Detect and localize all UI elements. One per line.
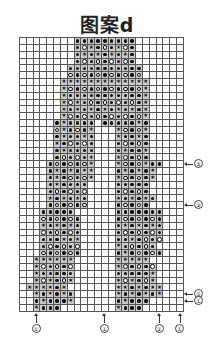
filled-dot-icon — [47, 250, 53, 256]
grid-cell — [20, 182, 27, 189]
grid-cell — [150, 182, 157, 189]
grid-cell — [170, 278, 177, 285]
star-icon: ★ — [88, 106, 94, 112]
filled-dot-icon — [61, 168, 67, 174]
filled-dot-icon — [61, 216, 67, 222]
filled-dot-icon — [109, 38, 115, 44]
grid-cell — [177, 257, 184, 264]
grid-cell — [20, 305, 27, 312]
grid-cell — [136, 271, 143, 278]
grid-cell — [20, 168, 27, 175]
grid-cell — [47, 127, 54, 134]
grid-cell — [95, 216, 102, 223]
filled-dot-icon — [88, 59, 94, 65]
grid-cell — [129, 264, 136, 271]
filled-dot-icon — [116, 59, 122, 65]
filled-dot-icon — [68, 236, 74, 242]
filled-dot-icon — [129, 86, 135, 92]
filled-dot-icon — [129, 284, 135, 290]
grid-cell — [75, 168, 82, 175]
filled-dot-icon — [122, 93, 128, 99]
grid-cell — [102, 65, 109, 72]
grid-cell — [81, 141, 88, 148]
star-icon: ★ — [47, 291, 53, 297]
grid-cell — [116, 230, 123, 237]
grid-cell — [20, 106, 27, 113]
grid-cell — [163, 45, 170, 52]
filled-dot-icon — [75, 65, 81, 71]
filled-dot-icon — [54, 278, 60, 284]
grid-cell — [143, 59, 150, 66]
grid-cell — [75, 243, 82, 250]
open-circle-icon — [68, 72, 74, 78]
grid-cell — [81, 100, 88, 107]
grid-cell — [95, 38, 102, 45]
grid-cell — [81, 236, 88, 243]
grid-cell: ★ — [116, 45, 123, 52]
star-icon: ★ — [47, 257, 53, 263]
grid-cell — [34, 189, 41, 196]
open-circle-icon — [122, 141, 128, 147]
grid-cell — [47, 298, 54, 305]
open-circle-icon — [75, 154, 81, 160]
grid-cell — [81, 65, 88, 72]
grid-cell — [157, 209, 164, 216]
grid-cell — [54, 93, 61, 100]
grid-cell — [95, 86, 102, 93]
grid-cell — [157, 257, 164, 264]
grid-cell — [136, 291, 143, 298]
grid-cell — [170, 154, 177, 161]
star-icon: ★ — [40, 284, 46, 290]
grid-cell — [68, 59, 75, 66]
grid-cell — [40, 72, 47, 79]
grid-cell — [109, 223, 116, 230]
grid-cell — [34, 100, 41, 107]
grid-cell: ★ — [102, 106, 109, 113]
grid-cell — [34, 127, 41, 134]
grid-cell: ★ — [157, 291, 164, 298]
grid-cell — [27, 59, 34, 66]
grid-cell — [129, 305, 136, 312]
grid-cell — [129, 86, 136, 93]
star-icon: ★ — [40, 223, 46, 229]
grid-cell — [81, 175, 88, 182]
grid-cell — [81, 38, 88, 45]
grid-cell — [163, 161, 170, 168]
grid-cell — [163, 113, 170, 120]
grid-cell — [170, 202, 177, 209]
grid-cell — [109, 230, 116, 237]
grid-cell — [54, 127, 61, 134]
grid-cell — [61, 223, 68, 230]
grid-cell — [157, 168, 164, 175]
star-icon: ★ — [116, 134, 122, 140]
grid-cell — [109, 127, 116, 134]
grid-cell — [95, 65, 102, 72]
filled-dot-icon — [129, 59, 135, 65]
grid-cell — [163, 154, 170, 161]
grid-cell — [150, 141, 157, 148]
filled-dot-icon — [75, 38, 81, 44]
grid-cell — [34, 113, 41, 120]
filled-dot-icon — [109, 93, 115, 99]
grid-cell — [102, 278, 109, 285]
star-icon: ★ — [122, 148, 128, 154]
star-icon: ★ — [150, 223, 156, 229]
filled-dot-icon — [116, 168, 122, 174]
grid-cell — [75, 291, 82, 298]
grid-cell — [116, 65, 123, 72]
grid-cell — [75, 264, 82, 271]
star-icon: ★ — [109, 79, 115, 85]
filled-dot-icon — [143, 284, 149, 290]
grid-cell — [143, 298, 150, 305]
grid-cell: ★ — [61, 148, 68, 155]
grid-cell — [102, 271, 109, 278]
filled-dot-icon — [129, 93, 135, 99]
open-circle-icon — [129, 243, 135, 249]
grid-cell — [27, 120, 34, 127]
grid-cell — [177, 305, 184, 312]
grid-cell — [88, 113, 95, 120]
grid-cell — [88, 298, 95, 305]
grid-cell — [129, 175, 136, 182]
grid-cell — [163, 100, 170, 107]
grid-cell — [88, 216, 95, 223]
